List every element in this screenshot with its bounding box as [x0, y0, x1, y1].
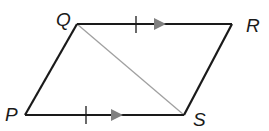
parallel-arrow-icon-qr — [154, 18, 166, 30]
vertex-label-s: S — [193, 110, 206, 129]
vertex-label-q: Q — [56, 10, 71, 29]
side-rs — [184, 24, 232, 115]
parallelogram-diagram — [0, 0, 269, 131]
vertex-label-r: R — [246, 16, 260, 35]
side-pq — [25, 24, 77, 115]
parallel-arrow-icon-ps — [111, 109, 123, 121]
vertex-label-p: P — [5, 105, 18, 124]
diagonal-qs — [77, 24, 184, 115]
